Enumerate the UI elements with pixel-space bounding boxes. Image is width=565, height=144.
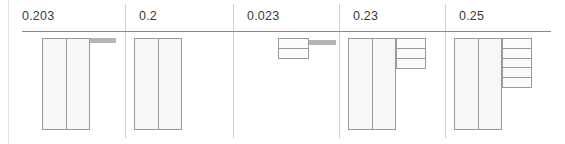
mini-box-cell xyxy=(279,48,308,58)
panel-plot-5 xyxy=(445,36,551,136)
tall-bar-group-4 xyxy=(348,38,396,130)
tall-bar xyxy=(135,39,158,129)
panel-3: 0.023 xyxy=(233,0,339,144)
panel-5: 0.25 xyxy=(445,0,551,144)
mini-box-3 xyxy=(278,38,309,59)
panel-plot-3 xyxy=(233,36,339,136)
panel-plot-2 xyxy=(125,36,233,136)
panel-1: 0.203 xyxy=(8,0,125,144)
panel-plot-1 xyxy=(8,36,125,136)
tall-bar xyxy=(372,39,395,129)
gray-overflow-bar-3 xyxy=(309,40,336,45)
schematic-figure: 0.2030.20.0230.230.25 xyxy=(0,0,565,144)
gray-overflow-bar-1 xyxy=(90,38,116,43)
stack-cell xyxy=(397,58,425,68)
stack-cell xyxy=(397,39,425,48)
stack-cell xyxy=(397,48,425,58)
tall-bar xyxy=(478,39,501,129)
panel-plot-4 xyxy=(339,36,445,136)
tall-bar xyxy=(43,39,66,129)
stack-cell xyxy=(503,48,531,58)
tall-bar xyxy=(66,39,89,129)
stack-cell xyxy=(503,39,531,48)
tall-bar xyxy=(455,39,478,129)
tall-bar-group-2 xyxy=(134,38,182,130)
stack-cell xyxy=(503,58,531,68)
panel-label-2: 0.2 xyxy=(139,9,157,23)
panel-label-3: 0.023 xyxy=(247,9,279,23)
tall-bar-group-5 xyxy=(454,38,502,130)
stack-group-4 xyxy=(396,38,426,69)
tall-bar xyxy=(349,39,372,129)
tall-bar xyxy=(158,39,181,129)
panel-label-1: 0.203 xyxy=(22,9,54,23)
tall-bar-group-1 xyxy=(42,38,90,130)
stack-cell xyxy=(503,77,531,87)
panel-label-4: 0.23 xyxy=(353,9,378,23)
stack-cell xyxy=(503,67,531,77)
panel-4: 0.23 xyxy=(339,0,445,144)
mini-box-cell xyxy=(279,39,308,48)
panel-2: 0.2 xyxy=(125,0,233,144)
panel-label-5: 0.25 xyxy=(459,9,484,23)
stack-group-5 xyxy=(502,38,532,88)
